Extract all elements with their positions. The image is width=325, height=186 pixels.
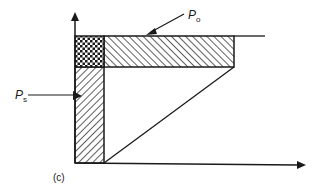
x-axis	[75, 161, 306, 169]
p-s-sub: s	[23, 95, 27, 104]
svg-text:Ps: Ps	[15, 88, 27, 104]
horizontal-hatched-band	[104, 36, 234, 67]
figure-caption: (c)	[53, 172, 65, 183]
vertical-hatched-band	[75, 67, 104, 163]
p-o-main: P	[188, 8, 196, 22]
p-o-sub: o	[196, 15, 201, 24]
diagram: Po Ps (c)	[0, 0, 325, 186]
p-s-main: P	[15, 88, 23, 102]
label-p-s: Ps	[15, 88, 82, 104]
svg-text:Po: Po	[188, 8, 201, 24]
x-axis-arrow-icon	[297, 161, 306, 169]
y-axis-arrow-icon	[71, 12, 79, 21]
overlap-crosshatched-box	[75, 36, 104, 67]
label-p-o: Po	[146, 8, 201, 35]
diagonal-line	[104, 67, 234, 163]
